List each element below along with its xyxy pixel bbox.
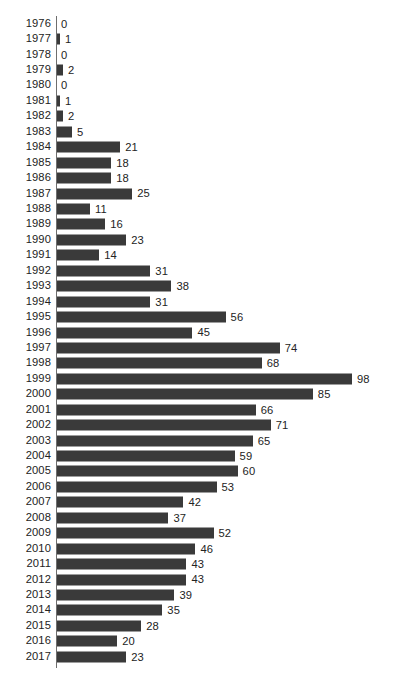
- bar-value-label: 28: [146, 620, 159, 631]
- bar[interactable]: 39: [57, 589, 192, 600]
- bar[interactable]: 68: [57, 358, 279, 369]
- bar[interactable]: 66: [57, 404, 273, 415]
- bar[interactable]: 65: [57, 435, 270, 446]
- category-tick-label: 1993: [26, 281, 51, 292]
- category-tick-label: 1997: [26, 342, 51, 353]
- bar-value-label: 25: [137, 188, 150, 199]
- bar[interactable]: 53: [57, 481, 234, 492]
- bar[interactable]: 60: [57, 466, 255, 477]
- bar-rect: [57, 142, 120, 153]
- bar[interactable]: 43: [57, 559, 204, 570]
- bar-row: 201620: [0, 634, 403, 649]
- bar-rect: [57, 435, 253, 446]
- bar[interactable]: 5: [57, 126, 83, 137]
- bar[interactable]: 23: [57, 651, 144, 662]
- bar[interactable]: 38: [57, 281, 189, 292]
- bar-value-label: 60: [243, 466, 256, 477]
- bar-value-label: 85: [318, 389, 331, 400]
- bar[interactable]: 18: [57, 157, 129, 168]
- category-tick-label: 1985: [26, 157, 51, 168]
- bar-row: 200952: [0, 526, 403, 541]
- bar[interactable]: 42: [57, 497, 201, 508]
- bar[interactable]: 85: [57, 389, 331, 400]
- category-tick-label: 1987: [26, 188, 51, 199]
- bar[interactable]: 1: [57, 34, 71, 45]
- bar-rect: [57, 296, 150, 307]
- bar-rect: [57, 497, 183, 508]
- bar[interactable]: 2: [57, 65, 74, 76]
- bar[interactable]: 46: [57, 543, 213, 554]
- category-tick-label: 2015: [26, 620, 51, 631]
- bar-rect: [57, 574, 186, 585]
- bar[interactable]: 45: [57, 327, 210, 338]
- bar[interactable]: 23: [57, 234, 144, 245]
- category-tick-label: 2003: [26, 435, 51, 446]
- category-tick-label: 1994: [26, 296, 51, 307]
- bar-rect: [57, 512, 168, 523]
- bar-rect: [57, 589, 174, 600]
- bar[interactable]: 0: [57, 80, 67, 91]
- category-tick-label: 1992: [26, 265, 51, 276]
- bar-value-label: 45: [197, 327, 210, 338]
- bar-value-label: 2: [68, 64, 74, 75]
- bar[interactable]: 21: [57, 142, 138, 153]
- bar[interactable]: 31: [57, 296, 168, 307]
- bar[interactable]: 1: [57, 95, 71, 106]
- bar[interactable]: 2: [57, 111, 74, 122]
- bar-rect: [57, 34, 60, 45]
- bar-rect: [57, 203, 90, 214]
- bar[interactable]: 35: [57, 605, 180, 616]
- bar-value-label: 14: [104, 250, 117, 261]
- bar-value-label: 21: [125, 142, 138, 153]
- bar-row: 198618: [0, 170, 403, 185]
- bar-row: 200742: [0, 495, 403, 510]
- bar[interactable]: 14: [57, 250, 117, 261]
- bar[interactable]: 16: [57, 219, 123, 230]
- bar-value-label: 16: [110, 219, 123, 230]
- bar-row: 201243: [0, 572, 403, 587]
- bar-value-label: 46: [200, 543, 213, 554]
- bar-row: 200653: [0, 479, 403, 494]
- bar-value-label: 0: [61, 49, 67, 60]
- bar-value-label: 0: [61, 18, 67, 29]
- bar[interactable]: 74: [57, 342, 297, 353]
- bar[interactable]: 20: [57, 636, 135, 647]
- bar-row: 199556: [0, 309, 403, 324]
- bar-rect: [57, 188, 132, 199]
- category-tick-label: 1980: [26, 80, 51, 91]
- bar[interactable]: 71: [57, 420, 288, 431]
- bar-value-label: 98: [357, 373, 370, 384]
- bar-row: 201435: [0, 603, 403, 618]
- bar-rect: [57, 528, 214, 539]
- bar[interactable]: 25: [57, 188, 150, 199]
- bar[interactable]: 59: [57, 451, 252, 462]
- category-tick-label: 2000: [26, 389, 51, 400]
- bar[interactable]: 0: [57, 18, 67, 29]
- category-tick-label: 2004: [26, 450, 51, 461]
- bar-rect: [57, 636, 117, 647]
- category-tick-label: 2013: [26, 589, 51, 600]
- bar-value-label: 31: [155, 265, 168, 276]
- bar-rect: [57, 265, 150, 276]
- plot-area: 1976019771197801979219800198111982219835…: [0, 0, 403, 682]
- bar[interactable]: 56: [57, 312, 243, 323]
- bar[interactable]: 31: [57, 265, 168, 276]
- bar-row: 200560: [0, 464, 403, 479]
- bar[interactable]: 28: [57, 620, 159, 631]
- bar[interactable]: 37: [57, 512, 186, 523]
- bar-value-label: 56: [231, 311, 244, 322]
- bar[interactable]: 43: [57, 574, 204, 585]
- bar-rect: [57, 157, 111, 168]
- bar-value-label: 59: [240, 450, 253, 461]
- bar-rect: [57, 466, 238, 477]
- bar-value-label: 23: [131, 651, 144, 662]
- category-tick-label: 1991: [26, 250, 51, 261]
- bar[interactable]: 98: [57, 373, 370, 384]
- bar[interactable]: 18: [57, 173, 129, 184]
- bar[interactable]: 0: [57, 49, 67, 60]
- bar-value-label: 39: [179, 589, 192, 600]
- bar-value-label: 66: [261, 404, 274, 415]
- bar[interactable]: 11: [57, 203, 107, 214]
- bar[interactable]: 52: [57, 528, 231, 539]
- bar-value-label: 5: [77, 126, 83, 137]
